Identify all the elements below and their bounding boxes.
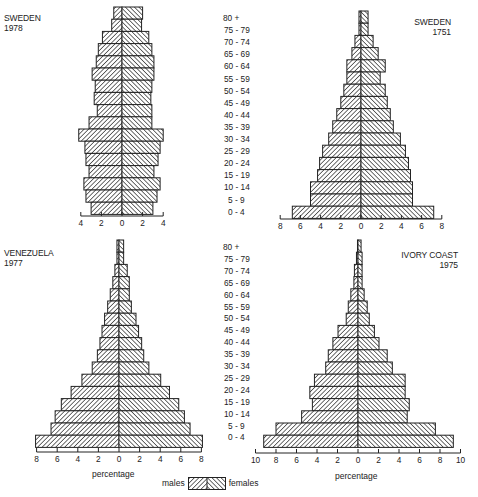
x-tick-label: 6 xyxy=(294,455,299,465)
bar-females xyxy=(358,399,409,411)
x-tick-label: 6 xyxy=(55,454,60,464)
bar-males xyxy=(92,362,119,374)
bar-males xyxy=(113,277,119,289)
bar-females xyxy=(358,423,435,435)
bar-females xyxy=(358,264,362,276)
bar-females xyxy=(122,7,143,19)
x-tick-label: 2 xyxy=(99,218,104,228)
bar-females xyxy=(119,338,142,350)
bar-males xyxy=(51,423,119,435)
bar-males xyxy=(348,301,358,313)
bar-males xyxy=(97,350,119,362)
bar-males xyxy=(276,423,358,435)
bar-males xyxy=(92,68,122,80)
x-tick-label: 8 xyxy=(274,455,279,465)
bar-males xyxy=(55,411,119,423)
bar-females xyxy=(361,72,380,84)
bar-females xyxy=(358,374,405,386)
bar-females xyxy=(358,386,405,398)
bar-males xyxy=(341,96,361,108)
x-tick-label: 2 xyxy=(376,455,381,465)
bar-females xyxy=(122,105,152,117)
bar-males xyxy=(352,48,361,60)
age-group-label: 45 - 49 xyxy=(224,98,250,108)
bar-males xyxy=(311,194,362,206)
age-group-label: 10 - 14 xyxy=(224,182,250,192)
bar-males xyxy=(85,141,122,153)
bar-males xyxy=(314,374,358,386)
bar-females xyxy=(122,202,153,214)
x-tick-label: 8 xyxy=(278,221,283,231)
age-group-label: 70 - 74 xyxy=(224,266,250,276)
age-group-label: 20 - 24 xyxy=(224,158,250,168)
bar-females xyxy=(361,145,405,157)
bar-females xyxy=(358,325,374,337)
country-name: VENEZUELA xyxy=(4,248,54,258)
age-group-label: 40 - 44 xyxy=(224,110,250,120)
bar-females xyxy=(119,423,190,435)
x-tick-label: 6 xyxy=(298,221,303,231)
bar-females xyxy=(122,190,157,202)
bar-females xyxy=(358,435,453,447)
x-tick-label: 8 xyxy=(438,455,443,465)
bar-females xyxy=(358,252,362,264)
x-tick-label: 2 xyxy=(338,221,343,231)
year: 1975 xyxy=(401,260,458,270)
bar-males xyxy=(115,264,119,276)
females-hatch-icon xyxy=(207,478,225,489)
age-group-label: 0 - 4 xyxy=(228,207,245,217)
bar-females xyxy=(119,325,139,337)
x-tick-label: 8 xyxy=(439,221,444,231)
age-group-label: 80 + xyxy=(223,242,239,252)
bar-females xyxy=(119,374,161,386)
chart-title-sweden-1751: SWEDEN 1751 xyxy=(414,17,451,37)
bar-females xyxy=(358,338,379,350)
bar-females xyxy=(361,48,378,60)
bar-males xyxy=(71,386,119,398)
age-group-label: 55 - 59 xyxy=(224,302,250,312)
bar-males xyxy=(94,92,122,104)
bar-females xyxy=(119,435,202,447)
bar-males xyxy=(333,121,361,133)
age-group-label: 60 - 64 xyxy=(224,290,250,300)
bar-males xyxy=(112,19,122,31)
x-tick-label: 8 xyxy=(34,454,39,464)
bar-males xyxy=(84,178,122,190)
x-tick-label: 4 xyxy=(161,218,166,228)
bar-females xyxy=(122,178,160,190)
bar-females xyxy=(361,157,408,169)
bar-males xyxy=(333,338,358,350)
bar-males xyxy=(89,166,122,178)
x-tick-label: 0 xyxy=(356,455,361,465)
bar-males xyxy=(82,374,119,386)
bar-males xyxy=(114,7,122,19)
bar-males xyxy=(102,31,122,43)
bar-females xyxy=(361,109,390,121)
bar-females xyxy=(361,194,413,206)
age-group-label: 45 - 49 xyxy=(224,325,250,335)
x-tick-label: 4 xyxy=(397,455,402,465)
legend: males females xyxy=(162,476,258,490)
age-group-label: 30 - 34 xyxy=(224,134,250,144)
x-tick-label: 4 xyxy=(78,218,83,228)
year: 1978 xyxy=(4,23,41,33)
bar-females xyxy=(358,362,392,374)
bar-males xyxy=(102,325,119,337)
bar-males xyxy=(292,206,361,218)
x-tick-label: 4 xyxy=(318,221,323,231)
bar-females xyxy=(119,386,169,398)
age-group-label: 40 - 44 xyxy=(224,337,250,347)
legend-swatch xyxy=(188,477,226,490)
bar-males xyxy=(346,313,358,325)
x-tick-label: 2 xyxy=(96,454,101,464)
bar-males xyxy=(328,350,358,362)
pyramid-ivory-coast-1975: 1086420246810 xyxy=(251,240,466,465)
age-group-label: 75 - 79 xyxy=(224,25,250,35)
age-group-label: 35 - 39 xyxy=(224,122,250,132)
bar-males xyxy=(318,170,361,182)
age-group-label: 25 - 29 xyxy=(224,373,250,383)
bar-females xyxy=(361,96,387,108)
bar-males xyxy=(344,84,361,96)
bar-females xyxy=(361,170,410,182)
x-tick-label: 4 xyxy=(158,454,163,464)
